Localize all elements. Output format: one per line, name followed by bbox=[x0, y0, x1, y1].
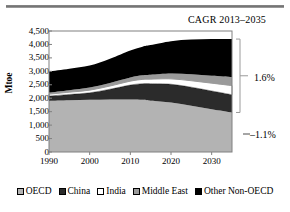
cagr-non-oecd-label: 1.6% bbox=[254, 72, 275, 83]
legend-item[interactable]: OECD bbox=[17, 186, 52, 196]
legend-label: Other Non-OECD bbox=[204, 186, 273, 196]
plot-area bbox=[0, 0, 290, 212]
legend-item[interactable]: Middle East bbox=[133, 186, 188, 196]
cagr-bracket bbox=[236, 39, 240, 112]
legend-swatch bbox=[195, 188, 202, 195]
cagr-oecd-label: –1.1% bbox=[250, 129, 276, 140]
legend-swatch bbox=[97, 188, 104, 195]
legend-item[interactable]: Other Non-OECD bbox=[195, 186, 273, 196]
chart-legend: OECDChinaIndiaMiddle EastOther Non-OECD bbox=[0, 186, 290, 196]
legend-label: OECD bbox=[26, 186, 52, 196]
legend-label: Middle East bbox=[142, 186, 188, 196]
legend-swatch bbox=[59, 188, 66, 195]
figure: CAGR 2013–2035 Mtoe 4,5004,0003,5003,000… bbox=[0, 0, 290, 212]
legend-label: India bbox=[106, 186, 126, 196]
legend-item[interactable]: India bbox=[97, 186, 126, 196]
legend-swatch bbox=[17, 188, 24, 195]
legend-swatch bbox=[133, 188, 140, 195]
legend-item[interactable]: China bbox=[59, 186, 91, 196]
legend-label: China bbox=[68, 186, 91, 196]
